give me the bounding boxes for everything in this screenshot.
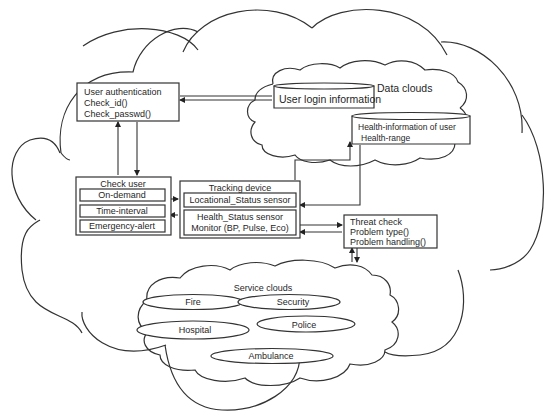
svg-text:Fire: Fire	[185, 297, 201, 307]
svg-text:Emergency-alert: Emergency-alert	[89, 221, 156, 231]
auth-method-check-passwd: Check_passwd()	[84, 109, 151, 119]
health-status-sensor[interactable]: Health_Status sensor Monitor (BP, Pulse,…	[184, 210, 296, 235]
health-db-line1: Health-information of user	[358, 122, 456, 132]
threat-method-problem-handling: Problem handling()	[350, 237, 426, 247]
threat-check-box[interactable]: Threat check Problem type() Problem hand…	[344, 215, 437, 248]
auth-method-check-id: Check_id()	[84, 98, 128, 108]
tracking-device-title: Tracking device	[209, 183, 272, 193]
threat-check-title: Threat check	[350, 217, 403, 227]
svg-text:Ambulance: Ambulance	[248, 351, 293, 361]
svg-text:Security: Security	[277, 297, 310, 307]
svg-text:Monitor (BP, Pulse, Eco): Monitor (BP, Pulse, Eco)	[191, 223, 288, 233]
tracking-device-box[interactable]: Tracking device Locational_Status sensor…	[180, 181, 300, 238]
service-security[interactable]: Security	[238, 295, 340, 310]
svg-text:Hospital: Hospital	[179, 325, 212, 335]
svg-text:On-demand: On-demand	[98, 190, 146, 200]
service-fire[interactable]: Fire	[143, 295, 243, 310]
service-police[interactable]: Police	[257, 316, 355, 332]
service-hospital[interactable]: Hospital	[137, 321, 249, 339]
svg-text:Locational_Status sensor: Locational_Status sensor	[189, 195, 290, 205]
check-user-item-emergency-alert[interactable]: Emergency-alert	[80, 220, 165, 232]
user-authentication-box[interactable]: User authentication Check_id() Check_pas…	[77, 83, 179, 121]
data-clouds-label: Data clouds	[377, 82, 432, 94]
user-login-database[interactable]: User login information	[274, 83, 381, 108]
svg-text:Time-interval: Time-interval	[96, 206, 148, 216]
service-ambulance[interactable]: Ambulance	[211, 349, 333, 364]
locational-status-sensor[interactable]: Locational_Status sensor	[184, 193, 296, 207]
check-user-item-time-interval[interactable]: Time-interval	[80, 205, 165, 217]
check-user-title: Check user	[100, 179, 146, 189]
health-info-database[interactable]: Health-information of user Health-range	[352, 113, 470, 145]
service-clouds-label: Service clouds	[234, 283, 293, 293]
diagram-canvas: User login information Data clouds Healt…	[0, 0, 545, 417]
threat-method-problem-type: Problem type()	[350, 227, 409, 237]
health-db-line2: Health-range	[361, 133, 410, 143]
check-user-item-on-demand[interactable]: On-demand	[80, 189, 165, 201]
svg-text:Police: Police	[292, 320, 317, 330]
auth-title: User authentication	[84, 87, 162, 97]
svg-text:Health_Status sensor: Health_Status sensor	[197, 212, 283, 222]
user-login-db-label: User login information	[279, 93, 381, 105]
check-user-box[interactable]: Check user On-demand Time-interval Emerg…	[76, 177, 171, 235]
